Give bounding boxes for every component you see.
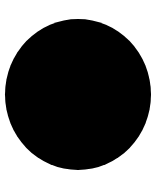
black-circle-shape — [5, 19, 151, 170]
canvas — [0, 0, 165, 182]
